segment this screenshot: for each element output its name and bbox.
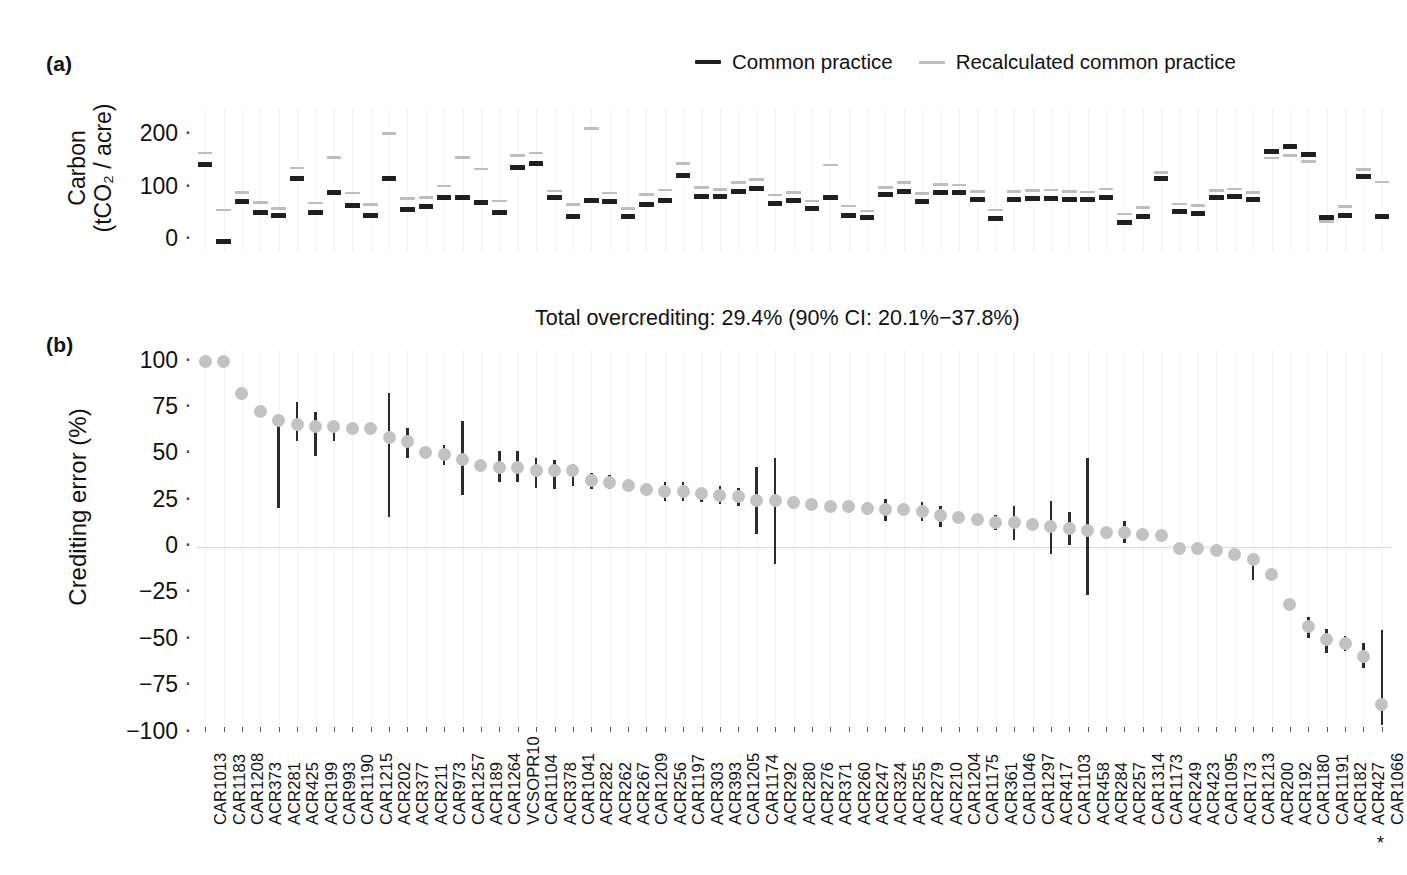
x-axis-label: ACR377 bbox=[413, 762, 432, 825]
common-practice-mark bbox=[1319, 215, 1334, 220]
x-tick-mark bbox=[959, 727, 960, 732]
recalculated-common-practice-mark bbox=[1154, 171, 1169, 174]
overcrediting-annotation: Total overcrediting: 29.4% (90% CI: 20.1… bbox=[535, 306, 1020, 331]
gridline bbox=[1198, 108, 1199, 252]
recalculated-common-practice-mark bbox=[658, 189, 673, 192]
gridline bbox=[628, 108, 629, 252]
recalculated-common-practice-mark bbox=[1025, 189, 1040, 192]
x-tick-mark bbox=[885, 727, 886, 732]
x-tick-mark bbox=[1124, 727, 1125, 732]
recalculated-common-practice-mark bbox=[547, 190, 562, 193]
x-axis-label: ACR182 bbox=[1351, 762, 1370, 825]
x-axis-label: ACR373 bbox=[266, 762, 285, 825]
x-tick-mark bbox=[738, 727, 739, 732]
gridline bbox=[1290, 350, 1291, 725]
x-tick-mark bbox=[205, 727, 206, 732]
x-tick-mark bbox=[830, 727, 831, 732]
x-tick-mark bbox=[1051, 727, 1052, 732]
panel-b-y-tick-mark: · bbox=[184, 530, 192, 557]
gridline bbox=[794, 108, 795, 252]
gridline bbox=[922, 350, 923, 725]
gridline bbox=[1327, 108, 1328, 252]
common-practice-mark bbox=[841, 213, 856, 218]
common-practice-mark bbox=[1338, 213, 1353, 218]
recalculated-common-practice-mark bbox=[216, 209, 231, 212]
error-bar bbox=[314, 412, 317, 457]
common-practice-mark bbox=[768, 201, 783, 206]
data-point bbox=[603, 476, 616, 489]
recalculated-common-practice-mark bbox=[970, 190, 985, 193]
legend: Common practiceRecalculated common pract… bbox=[695, 50, 1236, 74]
data-point bbox=[383, 431, 396, 444]
data-point bbox=[934, 509, 947, 522]
gridline bbox=[1014, 108, 1015, 252]
x-axis-label: CAR1173 bbox=[1167, 754, 1186, 825]
recalculated-common-practice-mark bbox=[1375, 181, 1390, 184]
x-tick-mark bbox=[389, 727, 390, 732]
panel-b-y-tick-mark: · bbox=[184, 391, 192, 418]
x-tick-mark bbox=[1069, 727, 1070, 732]
x-tick-mark bbox=[555, 727, 556, 732]
x-tick-mark bbox=[1014, 727, 1015, 732]
gridline bbox=[1216, 350, 1217, 725]
recalculated-common-practice-mark bbox=[1301, 160, 1316, 163]
gridline bbox=[1290, 108, 1291, 252]
panel-b-y-tick-mark: · bbox=[184, 437, 192, 464]
x-tick-mark bbox=[1198, 727, 1199, 732]
common-practice-mark bbox=[1375, 214, 1390, 219]
gridline bbox=[205, 108, 206, 252]
panel-b-y-tick-mark: · bbox=[184, 716, 192, 743]
x-tick-mark bbox=[481, 727, 482, 732]
x-axis-label: ACR361 bbox=[1002, 762, 1021, 825]
gridline bbox=[1308, 350, 1309, 725]
x-tick-mark bbox=[573, 727, 574, 732]
gridline bbox=[1235, 108, 1236, 252]
data-point bbox=[1210, 544, 1223, 557]
x-tick-mark bbox=[1272, 727, 1273, 732]
data-point bbox=[916, 505, 929, 518]
data-point bbox=[677, 485, 690, 498]
panel-b-y-tick-label: −25 bbox=[28, 578, 178, 605]
recalculated-common-practice-mark bbox=[566, 203, 581, 206]
gridline bbox=[481, 108, 482, 252]
gridline bbox=[794, 350, 795, 725]
common-practice-mark bbox=[1044, 196, 1059, 201]
data-point bbox=[530, 464, 543, 477]
x-tick-mark bbox=[518, 727, 519, 732]
gridline bbox=[646, 350, 647, 725]
gridline bbox=[941, 350, 942, 725]
x-tick-mark bbox=[1235, 727, 1236, 732]
x-axis-label: CAR1183 bbox=[230, 754, 249, 825]
gridline bbox=[959, 350, 960, 725]
gridline bbox=[996, 108, 997, 252]
x-axis-label: ACR458 bbox=[1094, 762, 1113, 825]
common-practice-mark bbox=[878, 192, 893, 197]
recalculated-common-practice-mark bbox=[915, 192, 930, 195]
common-practice-mark bbox=[1246, 197, 1261, 202]
x-axis-label: CAR1103 bbox=[1075, 754, 1094, 825]
gridline bbox=[977, 108, 978, 252]
common-practice-mark bbox=[216, 239, 231, 244]
data-point bbox=[401, 435, 414, 448]
x-tick-mark bbox=[977, 727, 978, 732]
common-practice-mark bbox=[327, 190, 342, 195]
data-point bbox=[805, 498, 818, 511]
data-point bbox=[787, 496, 800, 509]
x-tick-mark bbox=[316, 727, 317, 732]
gridline bbox=[1033, 350, 1034, 725]
recalculated-common-practice-mark bbox=[1007, 190, 1022, 193]
x-tick-mark bbox=[260, 727, 261, 732]
common-practice-mark bbox=[382, 176, 397, 181]
gridline bbox=[279, 350, 280, 725]
x-tick-mark bbox=[352, 727, 353, 732]
x-tick-mark bbox=[904, 727, 905, 732]
recalculated-common-practice-mark bbox=[1062, 190, 1077, 193]
common-practice-mark bbox=[1117, 220, 1132, 225]
gridline bbox=[885, 108, 886, 252]
panel-b-y-tick-mark: · bbox=[184, 669, 192, 696]
data-point bbox=[1044, 520, 1057, 533]
x-axis-label: ACR173 bbox=[1241, 762, 1260, 825]
recalculated-common-practice-mark bbox=[345, 192, 360, 195]
x-tick-mark bbox=[242, 727, 243, 732]
